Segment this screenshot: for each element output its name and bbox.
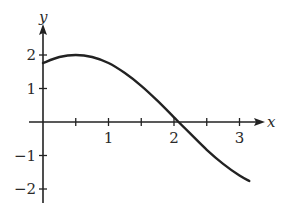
function-plot: x y 123 21−1−2 — [0, 0, 287, 209]
function-curve — [43, 55, 249, 181]
x-tick-label: 1 — [104, 129, 114, 147]
y-axis-label: y — [38, 8, 48, 26]
y-tick-label: 1 — [26, 80, 36, 98]
x-axis-label: x — [267, 113, 276, 131]
y-tick-label: −1 — [14, 147, 36, 165]
x-tick-label: 2 — [169, 129, 179, 147]
axes — [29, 32, 258, 203]
x-tick-label: 3 — [235, 129, 245, 147]
y-tick-label: 2 — [26, 46, 36, 64]
y-tick-label: −2 — [14, 180, 36, 198]
x-tick-labels: 123 — [104, 129, 245, 147]
